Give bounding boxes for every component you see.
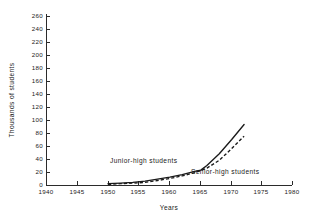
x-tick-label-1965: 1965 [192, 188, 207, 195]
y-tick-label-180: 180 [32, 64, 44, 71]
y-tick-label-40: 40 [35, 155, 43, 162]
series-annotations: Junior-high students Senior-high student… [110, 157, 260, 176]
y-tick-label-60: 60 [35, 142, 43, 149]
x-axis-title: Years [160, 204, 179, 211]
y-tick-marks [46, 16, 50, 185]
x-tick-label-1970: 1970 [223, 188, 238, 195]
x-tick-label-1955: 1955 [130, 188, 145, 195]
x-tick-label-1980: 1980 [284, 188, 299, 195]
chart-page: 0 20 40 60 80 100 120 140 160 180 200 22… [0, 0, 309, 224]
y-axis-title: Thousands of students [8, 62, 15, 137]
y-tick-labels: 0 20 40 60 80 100 120 140 160 180 200 22… [32, 12, 44, 188]
x-tick-labels: 1940 1945 1950 1955 1960 1965 1970 1975 … [38, 188, 299, 195]
y-tick-label-100: 100 [32, 116, 44, 123]
x-axis-group: 1940 1945 1950 1955 1960 1965 1970 1975 … [38, 181, 299, 211]
x-tick-label-1960: 1960 [161, 188, 176, 195]
y-tick-label-20: 20 [35, 168, 43, 175]
y-tick-label-140: 140 [32, 90, 44, 97]
x-tick-label-1940: 1940 [38, 188, 53, 195]
y-tick-label-220: 220 [32, 38, 44, 45]
y-tick-label-160: 160 [32, 77, 44, 84]
x-tick-label-1950: 1950 [100, 188, 115, 195]
y-tick-label-80: 80 [35, 129, 43, 136]
x-tick-label-1975: 1975 [253, 188, 268, 195]
line-chart: 0 20 40 60 80 100 120 140 160 180 200 22… [0, 0, 309, 224]
y-axis-group: 0 20 40 60 80 100 120 140 160 180 200 22… [8, 12, 50, 188]
series-group [108, 125, 244, 185]
annotation-junior-high-students: Junior-high students [110, 157, 178, 165]
y-tick-label-240: 240 [32, 25, 44, 32]
x-tick-label-1945: 1945 [69, 188, 84, 195]
annotation-senior-high-students: Senior-high students [191, 168, 260, 176]
x-tick-marks [46, 181, 292, 185]
y-tick-label-120: 120 [32, 103, 44, 110]
y-tick-label-260: 260 [32, 12, 44, 19]
y-tick-label-200: 200 [32, 51, 44, 58]
